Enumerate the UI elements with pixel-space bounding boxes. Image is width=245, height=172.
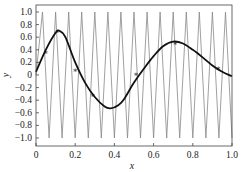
x-axis-label: x [129,160,135,171]
y-tick-label: −0.8 [15,120,32,130]
star-marker-icon: ∗ [172,39,177,48]
y-tick-label: −0.6 [15,108,32,118]
y-tick-label: 0.4 [20,45,32,55]
star-marker-icon: ∗ [72,66,77,75]
y-tick-label: −1.0 [15,133,32,143]
y-tick-label: 1.0 [20,7,32,17]
y-tick-label: 0.6 [20,32,32,42]
star-marker-icon: ∗ [133,70,138,79]
x-axis-ticks: 00.20.40.60.81.0 [34,143,239,160]
star-marker-icon: ∗ [55,27,60,36]
x-tick-label: 0.6 [148,150,160,160]
x-tick-label: 0.4 [108,150,120,160]
y-tick-label: 0 [27,70,32,80]
star-marker-icon: ∗ [43,48,48,57]
x-tick-label: 1.0 [226,150,238,160]
y-tick-label: −0.2 [15,83,32,93]
x-tick-label: 0.8 [187,150,199,160]
y-tick-label: −0.4 [15,95,32,105]
x-tick-label: 0 [34,150,39,160]
x-tick-label: 0.2 [69,150,81,160]
y-axis-label: y [0,72,11,78]
line-chart: ∗∗∗∗∗∗∗ 00.20.40.60.81.0 1.00.80.60.40.2… [0,0,245,172]
y-tick-label: 0.8 [20,20,32,30]
star-marker-icon: ∗ [216,64,221,73]
y-tick-label: 0.2 [20,57,32,67]
y-axis-ticks: 1.00.80.60.40.20−0.2−0.4−0.6−0.8−1.0 [15,7,39,143]
star-marker-icon: ∗ [90,91,95,100]
